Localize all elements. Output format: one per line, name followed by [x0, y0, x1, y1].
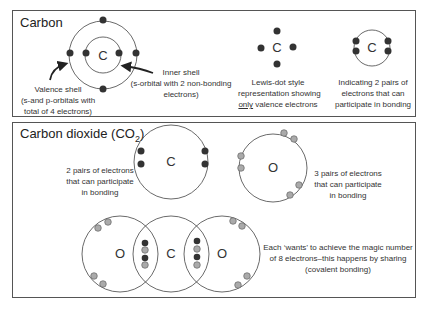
two-pairs-caption: Indicating 2 pairs of electrons that can… [334, 77, 412, 110]
svg-text:C: C [166, 154, 175, 169]
svg-text:C: C [272, 40, 281, 55]
carbon-symbol: C [98, 48, 107, 63]
svg-text:C: C [367, 40, 376, 55]
carbon-pairs-caption: 2 pairs of electrons that can participat… [62, 165, 138, 198]
oxygen-pairs-caption: 3 pairs of electrons that can participat… [310, 168, 386, 201]
inner-shell-caption: Inner shell (s-orbital with 2 non-bondin… [126, 67, 236, 100]
co2-molecule: O C O [82, 216, 260, 292]
svg-text:O: O [268, 160, 278, 175]
svg-text:C: C [166, 246, 175, 261]
carbon-two-pairs: C [353, 30, 392, 66]
svg-text:O: O [217, 246, 227, 261]
covalent-bonding-caption: Each ‘wants’ to achieve the magic number… [263, 242, 413, 275]
lewis-dot-caption: Lewis-dot style representation showing o… [238, 77, 318, 110]
co2-carbon-atom: C [134, 125, 209, 199]
lewis-dot-carbon: C [258, 28, 297, 68]
svg-text:O: O [115, 246, 125, 261]
co2-oxygen-atom: O [238, 130, 307, 202]
valence-arrow-icon [50, 64, 65, 80]
valence-shell-caption: Valence shell (s-and p-orbitals with tot… [14, 84, 102, 117]
